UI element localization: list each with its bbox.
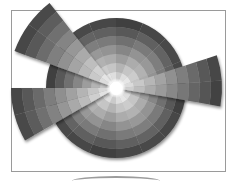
- right-wedge-segment: [188, 82, 200, 102]
- right-wedge-segment: [166, 84, 178, 99]
- bottom-shadow-arc: [72, 176, 160, 181]
- center-hub: [106, 78, 126, 98]
- polar-segment-diagram: [0, 0, 232, 181]
- lower-left-wedge-segment: [55, 88, 68, 104]
- right-wedge-segment: [155, 84, 167, 96]
- right-wedge-segment: [210, 81, 222, 107]
- right-wedge-segment: [199, 81, 211, 104]
- right-wedge-segment: [177, 83, 189, 101]
